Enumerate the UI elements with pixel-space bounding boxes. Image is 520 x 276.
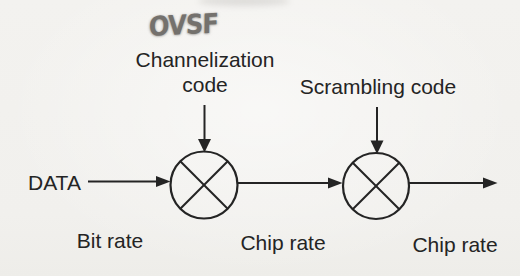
- signal-flow-diagram: [0, 0, 520, 276]
- channelization-code-arrow: [198, 105, 211, 153]
- scrambling-code-arrow: [371, 107, 384, 154]
- output-arrow: [409, 178, 498, 189]
- chip-stream-arrow: [238, 178, 343, 189]
- scanned-diagram-page: OVSF Channelization code Scrambling code…: [0, 0, 520, 276]
- multiplier-1-icon: [171, 152, 238, 219]
- multiplier-2-icon: [343, 153, 409, 219]
- data-input-arrow: [88, 176, 171, 187]
